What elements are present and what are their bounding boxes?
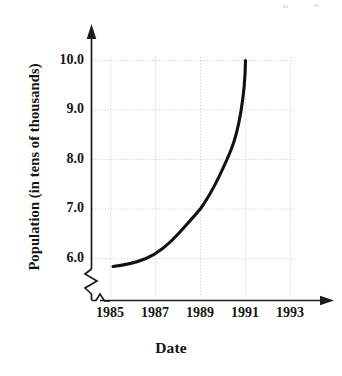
population-curve: [113, 61, 246, 267]
x-tick-label-1991: 1991: [222, 305, 268, 321]
y-tick-label-7: 7.0: [38, 200, 84, 216]
y-tick-label-8: 8.0: [38, 151, 84, 167]
x-tick-label-1985: 1985: [87, 305, 133, 321]
y-axis-title: Population (in tens of thousands): [26, 12, 43, 322]
y-tick-label-9: 9.0: [38, 101, 84, 117]
population-growth-chart-figure: 10.0 9.0 8.0 7.0 6.0 1985 1987 1989 1991…: [0, 0, 342, 376]
gridlines-horizontal: [92, 61, 296, 259]
x-tick-label-1989: 1989: [177, 305, 223, 321]
y-tick-label-6: 6.0: [38, 250, 84, 266]
x-axis-title: Date: [0, 339, 342, 357]
y-axis-line: [87, 24, 97, 269]
x-tick-label-1993: 1993: [267, 305, 313, 321]
y-tick-label-10: 10.0: [38, 52, 84, 68]
y-axis-break-icon: [85, 269, 97, 300]
x-axis-line: [100, 296, 334, 306]
x-tick-label-1987: 1987: [132, 305, 178, 321]
